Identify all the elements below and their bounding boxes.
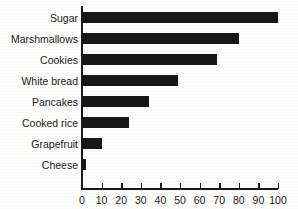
bar-fill [82,117,129,128]
bar-cookies [82,54,278,65]
tick-label-50: 50 [174,194,186,206]
tick-label-100: 100 [269,194,287,206]
tick-mark-100 [278,183,279,189]
tick-mark-90 [258,183,259,189]
bar-fill [82,54,217,65]
tick-mark-60 [200,183,201,189]
tick-mark-10 [102,183,103,189]
bar-white-bread [82,75,278,86]
plot-area [82,6,278,188]
tick-mark-40 [160,183,161,189]
tick-label-30: 30 [135,194,147,206]
category-label-marshmallows: Marshmallows [0,34,78,45]
bar-fill [82,12,278,23]
category-label-pancakes: Pancakes [0,97,78,108]
category-axis-labels: SugarMarshmallowsCookiesWhite breadPanca… [0,6,78,188]
category-label-cheese: Cheese [0,160,78,171]
category-label-white-bread: White bread [0,76,78,87]
category-label-cookies: Cookies [0,55,78,66]
tick-mark-20 [121,183,122,189]
bar-fill [82,138,102,149]
bar-marshmallows [82,33,278,44]
category-label-grapefruit: Grapefruit [0,139,78,150]
tick-label-60: 60 [194,194,206,206]
bar-grapefruit [82,138,278,149]
bar-pancakes [82,96,278,107]
category-label-cooked-rice: Cooked rice [0,118,78,129]
bar-sugar [82,12,278,23]
bar-cooked-rice [82,117,278,128]
tick-mark-80 [239,183,240,189]
tick-label-80: 80 [233,194,245,206]
tick-mark-0 [82,183,83,189]
bar-fill [82,159,86,170]
bar-fill [82,96,149,107]
tick-mark-30 [141,183,142,189]
tick-label-70: 70 [213,194,225,206]
tick-mark-50 [180,183,181,189]
tick-label-90: 90 [253,194,265,206]
tick-label-0: 0 [79,194,85,206]
bar-chart: SugarMarshmallowsCookiesWhite breadPanca… [0,0,298,209]
category-label-sugar: Sugar [0,13,78,24]
tick-label-10: 10 [96,194,108,206]
bar-fill [82,75,178,86]
bar-cheese [82,159,278,170]
bar-fill [82,33,239,44]
tick-label-20: 20 [115,194,127,206]
tick-mark-70 [219,183,220,189]
tick-label-40: 40 [155,194,167,206]
